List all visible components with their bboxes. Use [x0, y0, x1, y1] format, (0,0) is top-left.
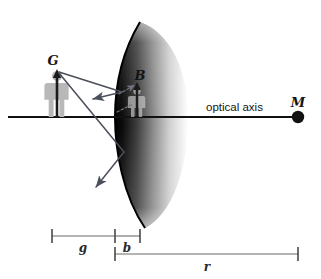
- center-of-curvature-label: M: [290, 95, 306, 110]
- optical-axis-label: optical axis: [206, 101, 263, 113]
- dimension-g-label: g: [79, 241, 87, 255]
- optics-diagram-canvas: G B M optical axis g b r: [0, 0, 321, 279]
- dimension-b-label: b: [123, 241, 131, 255]
- dimension-r-label: r: [204, 260, 212, 274]
- image-label: B: [134, 68, 146, 83]
- dimension-lines: [52, 229, 298, 261]
- center-of-curvature-point: [292, 111, 304, 123]
- optics-diagram: G B M optical axis g b r: [0, 0, 321, 279]
- object-group: [44, 69, 68, 117]
- object-label: G: [47, 53, 58, 68]
- concave-mirror: [115, 22, 188, 228]
- reflected-ray-lower: [96, 152, 124, 187]
